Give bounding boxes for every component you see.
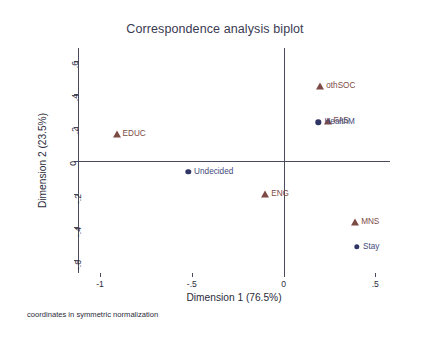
triangle-marker-icon [316, 83, 324, 90]
triangle-marker-icon [261, 190, 269, 197]
x-axis-tick-label: -1 [96, 279, 104, 289]
horizontal-reference-line [78, 161, 390, 162]
vertical-reference-line [284, 48, 285, 273]
data-point-label: ENG [271, 189, 289, 197]
y-axis-tick-label: 0 [68, 161, 78, 166]
data-point-label: HealthM [324, 118, 355, 126]
chart-title: Correspondence analysis biplot [0, 22, 430, 36]
data-point-label: EDUC [123, 130, 146, 138]
y-axis-tick-label: .6 [70, 61, 80, 68]
x-axis-tick-label: 0 [281, 279, 286, 289]
x-axis-tick [284, 273, 285, 277]
triangle-marker-icon [113, 131, 121, 138]
x-axis-tick [100, 273, 101, 277]
plot-area: -1-.50.5.6.4.20-.2-.4-.6othSOCFASEDUCENG… [78, 48, 390, 273]
data-point-label: Undecided [194, 168, 233, 176]
data-point-label: MNS [361, 218, 379, 226]
data-point-label: Stay [363, 242, 379, 250]
x-axis-tick-label: -.5 [187, 279, 197, 289]
y-axis-tick-label: -.6 [73, 260, 83, 270]
y-axis-tick-label: -.2 [73, 194, 83, 204]
chart-figure: Correspondence analysis biplot -1-.50.5.… [0, 0, 430, 339]
y-axis-tick-label: -.4 [73, 227, 83, 237]
x-axis-tick [375, 273, 376, 277]
triangle-marker-icon [351, 218, 359, 225]
dot-marker-icon [354, 244, 359, 249]
dot-marker-icon [316, 120, 321, 125]
x-axis-tick [192, 273, 193, 277]
data-point-label: othSOC [326, 82, 355, 90]
chart-footnote: coordinates in symmetric normalization [27, 310, 158, 319]
x-axis-title: Dimension 1 (76.5%) [78, 292, 390, 303]
x-axis-tick-label: .5 [372, 279, 379, 289]
y-axis-tick-label: .4 [70, 94, 80, 101]
y-axis-title: Dimension 2 (23.5%) [36, 48, 50, 273]
dot-marker-icon [185, 169, 190, 174]
y-axis-tick-label: .2 [70, 127, 80, 134]
